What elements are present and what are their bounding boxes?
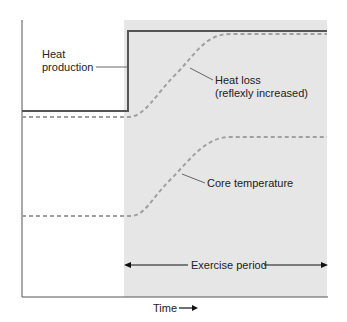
exercise-period-label: Exercise period [191, 259, 267, 272]
time-axis-label: Time [153, 302, 177, 315]
heat-loss-label-line1: Heat loss [215, 74, 308, 87]
heat-production-label-line2: production [42, 61, 93, 74]
heat-loss-label: Heat loss (reflexly increased) [215, 74, 308, 100]
heat-production-label: Heat production [42, 48, 93, 74]
heat-loss-label-line2: (reflexly increased) [215, 87, 308, 100]
core-temperature-label: Core temperature [207, 177, 293, 190]
time-arrow-icon [192, 305, 198, 311]
heat-production-label-line1: Heat [42, 48, 93, 61]
exercise-period-shading [124, 20, 327, 297]
